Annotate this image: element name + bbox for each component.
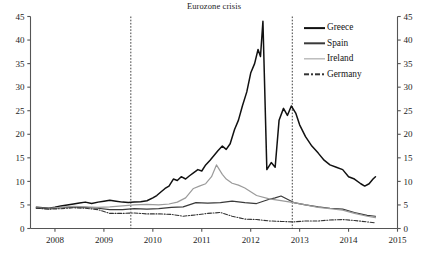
y-tick-label-left: 15	[16, 153, 26, 163]
x-tick-label: 2012	[242, 235, 260, 245]
legend-item-ireland[interactable]: Ireland	[303, 51, 403, 67]
y-tick-label-left: 30	[16, 82, 26, 92]
y-tick-label-right: 5	[404, 200, 409, 210]
y-tick-label-left: 5	[20, 200, 25, 210]
y-tick-label-right: 25	[404, 106, 414, 116]
legend-item-label: Spain	[326, 39, 348, 48]
legend-item-label: Ireland	[326, 54, 353, 63]
x-tick-label: 2010	[144, 235, 163, 245]
series-line-germany	[36, 208, 375, 223]
legend-item-greece[interactable]: Greece	[303, 20, 403, 36]
y-tick-label-left: 0	[20, 224, 25, 234]
legend-line-icon	[303, 23, 326, 33]
y-tick-label-right: 15	[404, 153, 414, 163]
series-line-ireland	[36, 165, 375, 218]
x-tick-label: 2008	[46, 235, 65, 245]
chart-legend: GreeceSpainIrelandGermany	[303, 20, 403, 82]
x-tick-label: 2015	[389, 235, 408, 245]
legend-item-germany[interactable]: Germany	[303, 67, 403, 83]
legend-item-label: Greece	[326, 23, 353, 32]
y-tick-label-right: 20	[404, 129, 414, 139]
x-tick-label: 2011	[193, 235, 211, 245]
y-tick-label-left: 10	[16, 177, 26, 187]
legend-line-icon	[303, 54, 326, 64]
legend-item-spain[interactable]: Spain	[303, 36, 403, 52]
y-tick-label-right: 10	[404, 177, 414, 187]
y-tick-label-right: 30	[404, 82, 414, 92]
legend-line-icon	[303, 38, 326, 48]
y-tick-label-left: 20	[16, 129, 26, 139]
x-tick-label: 2013	[291, 235, 310, 245]
chart-figure: Eurozone crisis 005510101515202025253030…	[0, 0, 428, 256]
x-tick-label: 2014	[340, 235, 359, 245]
y-tick-label-right: 35	[404, 59, 414, 69]
y-tick-label-left: 40	[16, 35, 26, 45]
y-tick-label-right: 45	[404, 12, 414, 22]
y-tick-label-left: 35	[16, 59, 26, 69]
y-tick-label-right: 40	[404, 35, 414, 45]
x-tick-label: 2009	[95, 235, 114, 245]
legend-line-icon	[303, 69, 326, 79]
y-tick-label-left: 45	[16, 12, 26, 22]
y-tick-label-left: 25	[16, 106, 26, 116]
y-tick-label-right: 0	[404, 224, 409, 234]
legend-item-label: Germany	[326, 70, 362, 79]
